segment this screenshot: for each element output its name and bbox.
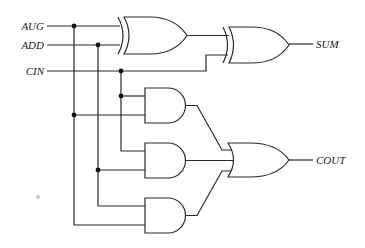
input-label-cin: CIN: [26, 65, 45, 77]
input-label-aug: AUG: [20, 20, 44, 32]
junction-dot: [119, 94, 124, 99]
junction-dot: [119, 69, 124, 74]
scan-artifact: [36, 195, 40, 199]
xor-gate-2: [223, 27, 289, 63]
and-gate-3: [145, 198, 186, 233]
wire-cin-bus: [121, 71, 145, 151]
junction-dot: [72, 113, 77, 118]
wire-aug-bus: [74, 26, 145, 225]
xor-gate-1: [118, 17, 187, 54]
wire-and1-out: [186, 106, 233, 151]
full-adder-diagram: AUG ADD CIN SUM COUT: [0, 0, 365, 248]
output-label-sum: SUM: [316, 38, 339, 50]
output-label-cout: COUT: [316, 154, 346, 166]
and-gate-1: [145, 88, 186, 123]
junction-dot: [96, 168, 101, 173]
junction-dot: [72, 24, 77, 29]
junction-dot: [96, 43, 101, 48]
or-gate: [228, 143, 289, 177]
and-gate-2: [145, 143, 186, 178]
wire-and3-out: [186, 171, 233, 216]
input-label-add: ADD: [20, 39, 44, 51]
